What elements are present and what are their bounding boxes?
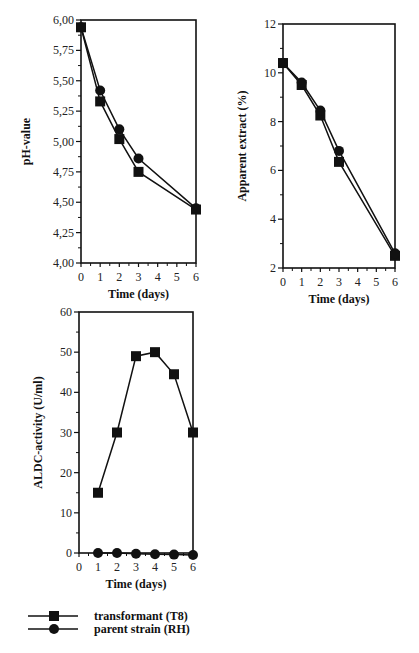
square-marker [188,428,198,438]
square-marker [131,351,141,361]
y-tick-label: 20 [60,466,72,480]
legend: transformant (T8)parent strain (RH) [28,609,190,636]
x-tick-label: 1 [95,560,101,574]
legend-label: parent strain (RH) [94,622,190,636]
y-tick-label: 12 [264,17,276,31]
x-tick-label: 4 [152,560,158,574]
y-tick-label: 4,75 [53,165,74,179]
x-tick-label: 6 [392,275,398,289]
x-tick-label: 3 [136,270,142,284]
y-tick-label: 0 [66,546,72,560]
x-tick-label: 2 [116,270,122,284]
y-tick-label: 6 [270,163,276,177]
x-tick-label: 5 [171,560,177,574]
plot-frame [79,312,193,553]
figure: 4,004,254,504,755,005,255,505,756,000123… [0,0,419,653]
series-line-transformant [81,27,196,209]
circle-marker [134,154,144,164]
y-tick-label: 5,75 [53,43,74,57]
circle-marker [297,78,307,88]
y-tick-label: 5,00 [53,135,74,149]
square-marker [169,369,179,379]
square-marker [93,488,103,498]
x-axis-title: Time (days) [309,292,370,306]
circle-marker [95,85,105,95]
y-axis-title: pH-value [19,117,33,165]
aldc-activity-chart: 01020304050600123456Time (days)ALDC-acti… [31,305,198,591]
circle-marker [188,550,198,560]
ph-chart: 4,004,254,504,755,005,255,505,756,000123… [19,13,201,301]
y-tick-label: 30 [60,426,72,440]
y-tick-label: 8 [270,115,276,129]
y-tick-label: 4 [270,212,276,226]
circle-marker [93,548,103,558]
square-marker [112,428,122,438]
y-tick-label: 50 [60,345,72,359]
circle-marker [131,549,141,559]
y-axis-title: Apparent extract (%) [235,90,249,201]
circle-marker [112,548,122,558]
circle-marker [334,146,344,156]
circle-marker [278,58,288,68]
circle-marker [390,248,400,258]
square-marker [150,347,160,357]
legend-square-icon [49,611,59,621]
y-tick-label: 10 [60,506,72,520]
x-tick-label: 1 [97,270,103,284]
circle-marker [150,549,160,559]
x-tick-label: 2 [317,275,323,289]
x-tick-label: 4 [155,270,161,284]
circle-marker [114,124,124,134]
x-tick-label: 0 [76,560,82,574]
x-tick-label: 5 [373,275,379,289]
plot-frame [81,20,196,263]
y-tick-label: 5,25 [53,104,74,118]
x-tick-label: 3 [336,275,342,289]
x-tick-label: 5 [174,270,180,284]
circle-marker [315,106,325,116]
square-marker [134,167,144,177]
legend-label: transformant (T8) [94,609,188,623]
circle-marker [76,22,86,32]
x-tick-label: 3 [133,560,139,574]
y-tick-label: 60 [60,305,72,319]
y-tick-label: 6,00 [53,13,74,27]
y-tick-label: 40 [60,385,72,399]
y-tick-label: 2 [270,261,276,275]
circle-marker [169,550,179,560]
y-tick-label: 4,50 [53,195,74,209]
x-tick-label: 2 [114,560,120,574]
x-axis-title: Time (days) [108,287,169,301]
y-tick-label: 4,25 [53,226,74,240]
y-tick-label: 5,50 [53,74,74,88]
legend-circle-icon [49,624,59,634]
x-axis-title: Time (days) [106,577,167,591]
series-line-parent-strain [81,27,196,208]
x-tick-label: 1 [299,275,305,289]
x-tick-label: 6 [193,270,199,284]
y-tick-label: 10 [264,66,276,80]
apparent-extract-chart: 246810120123456Time (days)Apparent extra… [235,17,400,306]
circle-marker [191,203,201,213]
y-axis-title: ALDC-activity (U/ml) [31,376,45,488]
y-tick-label: 4,00 [53,256,74,270]
x-tick-label: 4 [355,275,361,289]
x-tick-label: 0 [78,270,84,284]
x-tick-label: 6 [190,560,196,574]
x-tick-label: 0 [280,275,286,289]
